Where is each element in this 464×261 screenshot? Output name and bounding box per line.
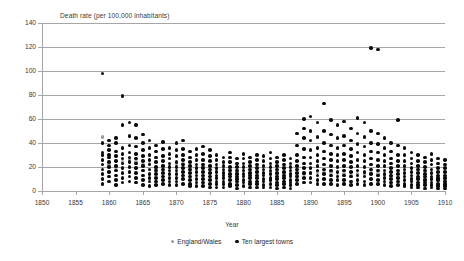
data-point — [309, 166, 313, 170]
data-point — [322, 150, 326, 154]
data-point — [336, 146, 340, 150]
data-point — [396, 164, 400, 168]
data-point — [134, 123, 138, 127]
data-point — [349, 147, 353, 151]
data-point — [114, 150, 118, 154]
data-point — [262, 186, 266, 190]
data-point — [228, 156, 232, 160]
data-point — [416, 186, 420, 190]
data-point — [282, 153, 286, 157]
data-point — [208, 148, 212, 152]
data-point — [161, 140, 165, 144]
data-point — [342, 164, 346, 168]
data-point — [376, 142, 380, 146]
data-point — [376, 164, 380, 168]
data-point — [128, 180, 132, 184]
data-point — [248, 156, 252, 160]
data-point — [356, 151, 360, 155]
data-point — [242, 157, 246, 161]
data-point — [195, 147, 199, 151]
data-point — [316, 121, 320, 125]
data-point — [329, 133, 333, 137]
data-point — [423, 187, 427, 191]
y-tick-label-140: 140 — [4, 19, 36, 26]
data-point — [309, 139, 313, 143]
y-tick-label-40: 40 — [4, 139, 36, 146]
plot-area — [42, 23, 445, 191]
data-point — [175, 148, 179, 152]
data-point — [121, 166, 125, 170]
data-point — [262, 154, 266, 158]
data-point — [302, 156, 306, 160]
data-point — [336, 123, 340, 127]
data-point — [316, 146, 320, 150]
data-point — [376, 132, 380, 136]
data-point — [295, 182, 299, 186]
data-point — [322, 163, 326, 167]
data-point — [148, 168, 152, 172]
data-point — [134, 136, 138, 140]
data-point — [336, 153, 340, 157]
data-point — [215, 153, 219, 157]
data-point — [322, 129, 326, 133]
data-point — [363, 145, 367, 149]
data-point — [322, 182, 326, 186]
y-tick-label-120: 120 — [4, 43, 36, 50]
data-point — [396, 159, 400, 163]
data-point — [342, 174, 346, 178]
data-point — [269, 151, 273, 155]
legend-item-0[interactable]: England/Wales — [171, 238, 222, 245]
data-point — [107, 148, 111, 152]
data-point — [295, 144, 299, 148]
data-point — [208, 186, 212, 190]
legend-item-1[interactable]: Ten largest towns — [235, 238, 293, 245]
data-point — [148, 146, 152, 150]
data-point — [114, 178, 118, 182]
data-point — [342, 152, 346, 156]
data-point — [389, 184, 393, 188]
data-point — [107, 175, 111, 179]
data-point — [396, 183, 400, 187]
y-tick-label-80: 80 — [4, 91, 36, 98]
scatter-chart: Death rate (per 100,000 inhabitants) 020… — [0, 0, 464, 261]
data-point — [383, 136, 387, 140]
data-point — [248, 186, 252, 190]
data-point — [369, 177, 373, 181]
data-point — [141, 169, 145, 173]
data-point — [201, 158, 205, 162]
data-point — [329, 144, 333, 148]
data-point — [121, 94, 125, 98]
legend-label: Ten largest towns — [242, 238, 293, 245]
data-point — [222, 156, 226, 160]
data-point — [101, 135, 105, 139]
data-point — [363, 135, 367, 139]
data-point — [262, 159, 266, 163]
data-point — [114, 154, 118, 158]
data-point — [389, 141, 393, 145]
data-point — [403, 146, 407, 150]
data-point — [302, 162, 306, 166]
data-point — [342, 134, 346, 138]
data-point — [316, 159, 320, 163]
data-point — [309, 129, 313, 133]
data-point — [369, 163, 373, 167]
data-point — [154, 183, 158, 187]
data-point — [396, 153, 400, 157]
data-point — [383, 183, 387, 187]
data-point — [208, 159, 212, 163]
data-point — [316, 135, 320, 139]
data-point — [403, 159, 407, 163]
data-point — [316, 174, 320, 178]
data-point — [114, 141, 118, 145]
data-point — [322, 141, 326, 145]
data-point — [383, 153, 387, 157]
legend-marker-icon — [235, 240, 238, 243]
data-point — [302, 147, 306, 151]
data-point — [134, 176, 138, 180]
data-point — [329, 152, 333, 156]
data-point — [376, 158, 380, 162]
data-point — [336, 136, 340, 140]
data-point — [316, 153, 320, 157]
data-point — [282, 158, 286, 162]
data-point — [369, 168, 373, 172]
